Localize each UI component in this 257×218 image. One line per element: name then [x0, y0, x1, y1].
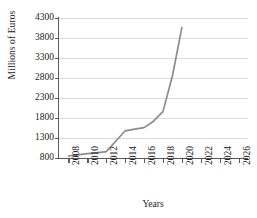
y-axis-tick-mark [55, 18, 58, 19]
x-axis-tick-mark [239, 159, 240, 163]
x-axis-tick-mark [220, 159, 221, 163]
x-axis-tick-mark [182, 159, 183, 163]
x-axis-tick-label: 2016 [148, 146, 158, 165]
x-axis-tick-mark [144, 159, 145, 163]
y-axis-tick-mark [55, 158, 58, 159]
x-axis-tick-mark [106, 159, 107, 163]
x-axis-tick-label: 2022 [205, 146, 215, 165]
x-axis-tick-label: 2010 [91, 146, 101, 165]
x-axis-tick-mark [163, 159, 164, 163]
y-axis-tick-mark [55, 118, 58, 119]
x-axis-tick-mark [201, 159, 202, 163]
data-series-line [0, 0, 257, 218]
x-axis-tick-label: 2020 [186, 146, 196, 165]
y-axis-tick-mark [55, 138, 58, 139]
x-axis-title: Years [58, 199, 248, 209]
x-axis-tick-mark [87, 159, 88, 163]
x-axis-tick-label: 2012 [110, 146, 120, 165]
y-axis-tick-mark [55, 98, 58, 99]
x-axis-tick-label: 2008 [72, 146, 82, 165]
x-axis-tick-mark [68, 159, 69, 163]
x-axis-tick-label: 2018 [167, 146, 177, 165]
y-axis-tick-mark [55, 38, 58, 39]
y-axis-tick-mark [55, 58, 58, 59]
x-axis-tick-label: 2014 [129, 146, 139, 165]
line-chart-figure: Millions of Euros 8001300180023002800330… [0, 0, 257, 218]
y-axis-tick-mark [55, 78, 58, 79]
x-axis-tick-label: 2024 [224, 146, 234, 165]
x-axis-tick-label: 2026 [243, 146, 253, 165]
x-axis-tick-mark [125, 159, 126, 163]
